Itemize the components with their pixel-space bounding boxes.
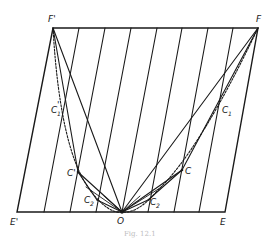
label-e-prime: E' xyxy=(10,217,18,227)
label-c-prime: C' xyxy=(67,168,76,178)
label-c1: C 1 xyxy=(222,105,232,117)
construction-lines-left xyxy=(53,28,182,212)
geometric-construction-diagram: F' F E' E O C' C C ' 1 C 1 C ' 2 C 2 Fig… xyxy=(0,0,273,240)
svg-text:': ' xyxy=(90,189,92,199)
svg-text:1: 1 xyxy=(57,110,61,117)
label-c1-prime: C ' 1 xyxy=(51,100,61,117)
parallelogram-outline xyxy=(17,28,258,212)
svg-text:': ' xyxy=(57,100,59,110)
construction-lines-right xyxy=(122,28,258,212)
svg-text:1: 1 xyxy=(228,110,232,117)
diagram-figure: F' F E' E O C' C C ' 1 C 1 C ' 2 C 2 Fig… xyxy=(0,0,273,240)
svg-text:2: 2 xyxy=(156,202,160,209)
figure-caption: Fig. 12.1 xyxy=(124,230,156,238)
label-c2: C 2 xyxy=(150,197,160,209)
label-c: C xyxy=(185,166,192,176)
label-e: E xyxy=(220,217,226,227)
dashed-parabola-curve xyxy=(53,28,258,212)
label-f-prime: F' xyxy=(48,14,56,24)
slanted-hatch-lines xyxy=(44,28,233,212)
svg-text:2: 2 xyxy=(90,200,94,207)
label-o: O xyxy=(117,216,124,226)
label-f: F xyxy=(256,14,262,24)
